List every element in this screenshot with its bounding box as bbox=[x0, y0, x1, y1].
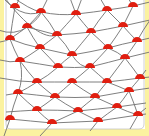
red-half-circle bbox=[135, 74, 145, 79]
red-half-circle bbox=[90, 93, 100, 98]
red-half-circle bbox=[71, 10, 81, 15]
red-half-circle bbox=[35, 44, 45, 49]
lattice-lines bbox=[0, 0, 149, 136]
red-half-circle bbox=[36, 8, 46, 13]
red-half-circle bbox=[112, 103, 122, 108]
red-half-circle bbox=[5, 35, 15, 40]
red-half-circle bbox=[13, 89, 23, 94]
red-half-circle bbox=[124, 87, 134, 92]
red-half-circle bbox=[5, 115, 15, 120]
red-half-circle bbox=[10, 3, 20, 8]
lattice-pattern bbox=[0, 0, 149, 136]
red-half-circle bbox=[128, 2, 138, 7]
red-half-circle bbox=[15, 57, 25, 62]
red-half-circle bbox=[86, 28, 96, 33]
red-half-circle bbox=[67, 51, 77, 56]
red-half-circle bbox=[102, 6, 112, 11]
red-half-circle bbox=[32, 78, 42, 83]
